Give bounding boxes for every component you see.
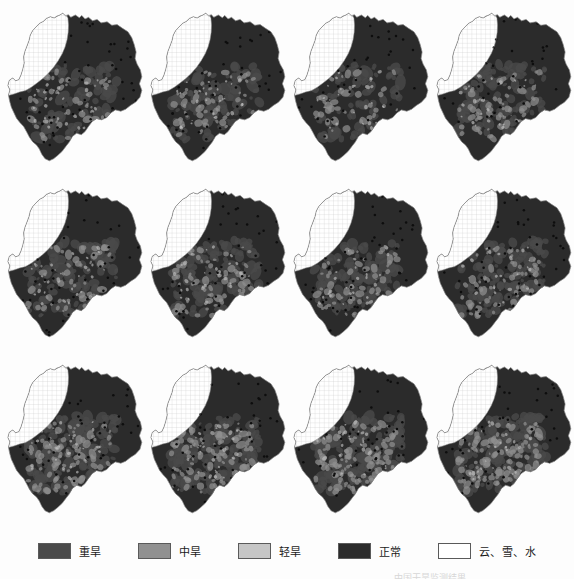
legend-swatch-normal	[338, 543, 371, 559]
legend-label-moderate-drought: 中旱	[179, 543, 202, 559]
bottom-caption: 中国干旱监测结果	[300, 571, 560, 579]
map-panel	[1, 6, 144, 178]
legend-item-moderate-drought: 中旱	[138, 543, 202, 559]
legend-item-light-drought: 轻旱	[238, 543, 302, 559]
map-panel	[430, 358, 573, 530]
drought-map-figure: 重旱中旱轻旱正常云、雪、水 中国干旱监测结果	[0, 0, 574, 579]
legend-swatch-severe-drought	[38, 543, 71, 559]
map-panel	[1, 182, 144, 354]
legend-item-severe-drought: 重旱	[38, 543, 102, 559]
map-panel	[287, 182, 430, 354]
map-panel	[430, 182, 573, 354]
map-panel	[430, 6, 573, 178]
map-panel	[287, 358, 430, 530]
legend-swatch-light-drought	[238, 543, 271, 559]
map-panel	[144, 358, 287, 530]
legend-item-cloud-snow-water: 云、雪、水	[438, 543, 537, 559]
legend-label-severe-drought: 重旱	[79, 543, 102, 559]
legend-swatch-cloud-snow-water	[438, 543, 471, 559]
legend: 重旱中旱轻旱正常云、雪、水	[0, 534, 574, 568]
legend-item-normal: 正常	[338, 543, 402, 559]
legend-label-light-drought: 轻旱	[279, 543, 302, 559]
map-panel	[1, 358, 144, 530]
legend-label-cloud-snow-water: 云、雪、水	[479, 543, 537, 559]
legend-label-normal: 正常	[379, 543, 402, 559]
legend-swatch-moderate-drought	[138, 543, 171, 559]
map-panel	[287, 6, 430, 178]
map-panel	[144, 182, 287, 354]
map-panel	[144, 6, 287, 178]
map-panel-grid	[0, 0, 574, 525]
